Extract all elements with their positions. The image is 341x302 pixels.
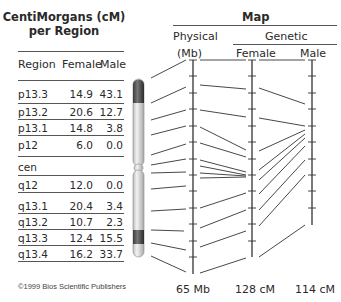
map-graphic — [0, 0, 341, 302]
chromosome-icon — [133, 79, 144, 257]
